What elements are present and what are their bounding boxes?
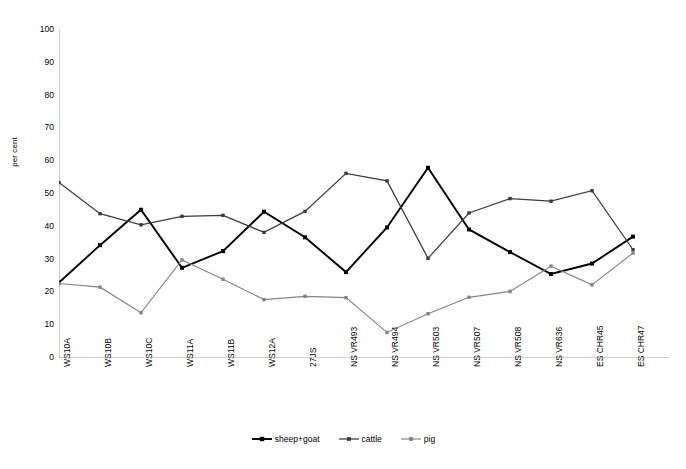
data-point <box>344 296 347 299</box>
data-point <box>59 181 61 184</box>
legend-item-label: cattle <box>362 434 382 444</box>
data-point <box>549 272 553 276</box>
data-point <box>98 243 102 247</box>
legend-item[interactable]: sheep+goat <box>251 434 320 444</box>
data-point <box>385 331 388 334</box>
legend-marker <box>260 437 264 441</box>
data-point <box>139 208 143 212</box>
data-point <box>467 296 470 299</box>
data-point <box>590 262 594 266</box>
legend-item-label: sheep+goat <box>275 434 320 444</box>
line-chart: per cent 1009080706050403020100 WS10AWS1… <box>0 0 686 469</box>
data-point <box>262 231 265 234</box>
data-point <box>631 251 634 254</box>
data-point <box>590 283 593 286</box>
data-point <box>385 179 388 182</box>
data-point <box>426 312 429 315</box>
data-point <box>631 235 635 239</box>
data-point <box>631 248 634 251</box>
legend-swatch-icon <box>400 434 422 444</box>
series-line <box>59 253 633 332</box>
legend-item[interactable]: cattle <box>338 434 382 444</box>
data-point <box>549 200 552 203</box>
legend-item[interactable]: pig <box>400 434 435 444</box>
data-point <box>508 197 511 200</box>
data-point <box>221 278 224 281</box>
series-sheep-goat <box>59 166 635 285</box>
data-point <box>508 250 512 254</box>
data-point <box>426 257 429 260</box>
plot-area <box>59 30 669 358</box>
data-point <box>221 214 224 217</box>
data-point <box>98 285 101 288</box>
data-point <box>467 211 470 214</box>
plot-svg <box>59 30 669 358</box>
data-point <box>262 210 266 214</box>
data-point <box>590 189 593 192</box>
legend-marker <box>347 437 351 441</box>
data-point <box>385 225 389 229</box>
data-point <box>139 311 142 314</box>
data-point <box>98 212 101 215</box>
series-line <box>59 168 633 283</box>
data-point <box>303 210 306 213</box>
legend-item-label: pig <box>424 434 435 444</box>
data-point <box>180 215 183 218</box>
data-point <box>303 235 307 239</box>
data-point <box>59 282 61 285</box>
chart-legend: sheep+goatcattlepig <box>0 434 686 444</box>
data-point <box>180 266 184 270</box>
data-point <box>344 270 348 274</box>
data-point <box>467 227 471 231</box>
series-pig <box>59 251 635 334</box>
data-point <box>139 223 142 226</box>
data-point <box>344 172 347 175</box>
data-point <box>221 249 225 253</box>
legend-marker <box>409 437 413 441</box>
legend-swatch-icon <box>338 434 360 444</box>
data-point <box>180 258 183 261</box>
data-point <box>262 298 265 301</box>
legend-swatch-icon <box>251 434 273 444</box>
data-point <box>508 290 511 293</box>
data-point <box>303 295 306 298</box>
data-point <box>549 264 552 267</box>
data-point <box>426 166 430 170</box>
